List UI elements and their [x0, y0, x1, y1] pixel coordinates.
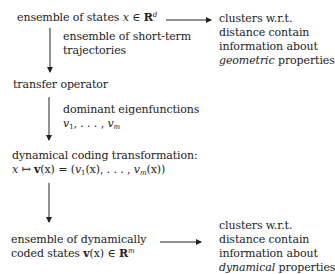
node-ensemble-of-states: ensemble of states x ∈ Rd: [17, 11, 157, 25]
node-transfer-operator: transfer operator: [13, 78, 108, 92]
edge-label-dominant-eigenfunctions: dominant eigenfunctions v1, . . . , vm: [63, 103, 199, 131]
node-dynamical-coding-transformation: dynamical coding transformation: x ↦ v(x…: [12, 149, 198, 177]
outcome-geometric: clusters w.r.t. distance contain informa…: [219, 12, 335, 68]
edge-label-short-term-trajectories: ensemble of short-term trajectories: [63, 30, 191, 58]
outcome-dynamical: clusters w.r.t. distance contain informa…: [219, 219, 335, 274]
node-dynamically-coded-states: ensemble of dynamically coded states v(x…: [11, 233, 146, 261]
